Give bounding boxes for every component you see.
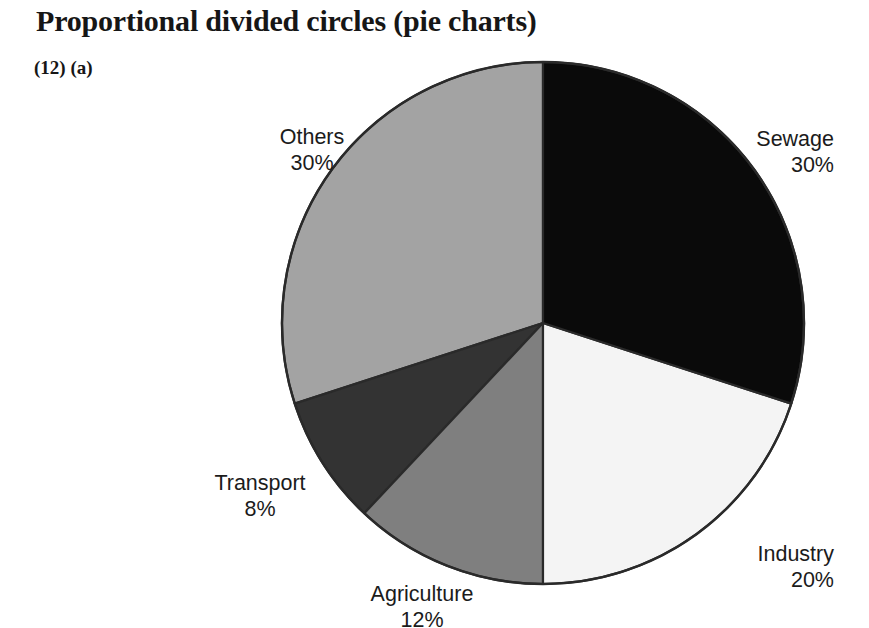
pie-label-agriculture-name: Agriculture xyxy=(336,581,508,607)
pie-chart-graphic xyxy=(0,0,869,628)
pie-label-industry-value: 20% xyxy=(686,567,834,593)
pie-label-industry: Industry 20% xyxy=(686,541,834,593)
pie-label-sewage-value: 30% xyxy=(686,152,834,178)
pie-label-sewage-name: Sewage xyxy=(686,126,834,152)
pie-label-others-name: Others xyxy=(244,124,380,150)
pie-label-industry-name: Industry xyxy=(686,541,834,567)
pie-label-agriculture-value: 12% xyxy=(336,607,508,628)
pie-chart-figure: Proportional divided circles (pie charts… xyxy=(0,0,869,628)
pie-label-transport: Transport 8% xyxy=(192,470,328,522)
pie-label-transport-value: 8% xyxy=(192,496,328,522)
pie-label-others: Others 30% xyxy=(244,124,380,176)
pie-label-agriculture: Agriculture 12% xyxy=(336,581,508,628)
pie-label-others-value: 30% xyxy=(244,150,380,176)
pie-label-sewage: Sewage 30% xyxy=(686,126,834,178)
pie-label-transport-name: Transport xyxy=(192,470,328,496)
